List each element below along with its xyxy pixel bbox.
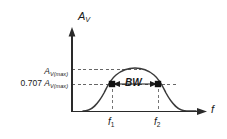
y-axis-arrowhead (69, 27, 76, 37)
avmax-label-subscript: V(max) (50, 71, 68, 77)
gain-response-curve (83, 68, 196, 111)
f1-label-subscript: 1 (111, 121, 115, 128)
av707-label-prefix: 0.707 (21, 78, 45, 88)
y-axis-title: AV (78, 11, 90, 22)
avmax-label: AV(max) (0, 66, 70, 78)
x-axis-title: f (211, 104, 214, 115)
f1-tick-label: f1 (108, 117, 114, 127)
level-annotation-group: AV(max) 0.707 AV(max) (0, 66, 70, 90)
f1-marker-point (109, 81, 115, 87)
frequency-response-figure: AV f AV(max) 0.707 AV(max) BW f1 f2 (0, 0, 227, 139)
bandwidth-label: BW (125, 78, 142, 88)
f2-marker-point (155, 81, 161, 87)
f2-tick-label: f2 (154, 117, 160, 127)
x-axis-arrowhead (197, 108, 207, 115)
y-axis-title-subscript: V (85, 15, 90, 24)
av707-label-subscript: V(max) (50, 83, 68, 89)
f2-label-subscript: 2 (157, 121, 161, 128)
av707-label: 0.707 AV(max) (0, 78, 70, 90)
